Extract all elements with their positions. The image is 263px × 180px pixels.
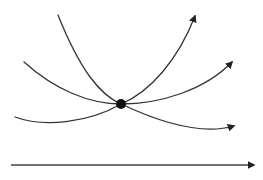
- steep-curve: [58, 15, 195, 104]
- diagram-canvas: [0, 0, 263, 180]
- medium-curve: [24, 62, 232, 104]
- intersection-point: [116, 99, 126, 109]
- shallow-curve: [15, 104, 234, 129]
